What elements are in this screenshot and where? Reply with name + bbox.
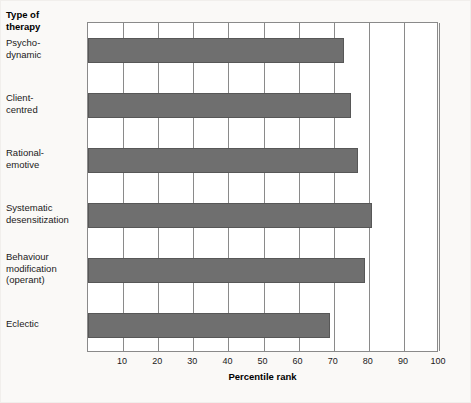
gridline-100 xyxy=(439,23,440,351)
chart-figure: Type of therapy Psycho- dynamicClient- c… xyxy=(0,0,471,403)
x-tick-label: 90 xyxy=(398,356,408,366)
bar xyxy=(88,258,365,283)
bar xyxy=(88,93,351,118)
x-tick-label: 100 xyxy=(430,356,445,366)
category-label: Client- centred xyxy=(6,92,85,115)
gridline-80 xyxy=(369,23,370,351)
gridline-20 xyxy=(158,23,159,351)
gridline-10 xyxy=(123,23,124,351)
category-label: Systematic desensitization xyxy=(6,202,85,225)
gridline-40 xyxy=(228,23,229,351)
x-tick-label: 70 xyxy=(328,356,338,366)
category-label-list: Psycho- dynamicClient- centredRational- … xyxy=(6,22,85,352)
x-axis-title: Percentile rank xyxy=(87,371,438,382)
category-label: Behaviour modification (operant) xyxy=(6,251,85,286)
gridline-70 xyxy=(334,23,335,351)
bar xyxy=(88,38,344,63)
gridline-30 xyxy=(193,23,194,351)
gridline-50 xyxy=(264,23,265,351)
x-tick-label: 40 xyxy=(222,356,232,366)
gridline-60 xyxy=(299,23,300,351)
bar xyxy=(88,313,330,338)
category-label: Psycho- dynamic xyxy=(6,37,85,60)
category-label: Eclectic xyxy=(6,318,85,330)
x-tick-label: 60 xyxy=(293,356,303,366)
x-tick-label: 30 xyxy=(187,356,197,366)
x-tick-label: 50 xyxy=(257,356,267,366)
plot-area xyxy=(87,22,438,352)
category-label: Rational- emotive xyxy=(6,147,85,170)
x-tick-label-list: 102030405060708090100 xyxy=(87,356,438,370)
gridline-90 xyxy=(404,23,405,351)
bar xyxy=(88,148,358,173)
x-tick-label: 80 xyxy=(363,356,373,366)
x-tick-label: 20 xyxy=(152,356,162,366)
x-tick-label: 10 xyxy=(117,356,127,366)
bar xyxy=(88,203,372,228)
